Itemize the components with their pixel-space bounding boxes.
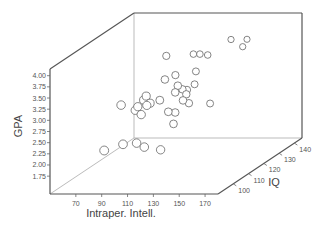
- data-point: [132, 139, 141, 148]
- z-tick-label: 1.75: [32, 173, 46, 180]
- data-point: [192, 68, 199, 75]
- data-point: [228, 36, 234, 42]
- x-tick-label: 110: [122, 200, 133, 207]
- iq-tick-label: 100: [238, 187, 250, 194]
- z-tick-label: 3.75: [32, 83, 46, 90]
- data-point: [100, 146, 109, 155]
- data-point: [156, 146, 164, 154]
- data-point: [190, 51, 197, 58]
- z-tick-label: 3.50: [32, 95, 46, 102]
- data-point: [161, 76, 169, 84]
- iq-axis-title: IQ: [268, 176, 280, 188]
- iq-tick-label: 130: [284, 156, 296, 163]
- data-point: [171, 89, 179, 97]
- data-point: [163, 52, 170, 59]
- data-point: [170, 120, 178, 128]
- z-tick-label: 3.00: [32, 117, 46, 124]
- x-tick-label: 170: [199, 200, 211, 207]
- iq-axis-line: [218, 138, 302, 194]
- iq-tick: [264, 163, 267, 165]
- plot-box: [50, 13, 302, 194]
- data-point: [140, 143, 149, 152]
- data-point: [179, 97, 187, 105]
- x-tick-label: 90: [98, 200, 106, 207]
- top-left-edge: [50, 13, 134, 69]
- iq-tick-label: 110: [254, 177, 265, 184]
- z-tick-label: 2.25: [32, 150, 46, 157]
- data-point: [207, 100, 214, 107]
- iq-tick: [249, 174, 252, 176]
- z-axis-title: GPA: [12, 114, 24, 137]
- iq-tick-label: 120: [269, 166, 281, 173]
- x-axis-title: Intraper. Intell.: [86, 207, 156, 219]
- z-tick-label: 3.25: [32, 106, 46, 113]
- data-point: [191, 81, 198, 88]
- data-point: [119, 140, 128, 149]
- iq-tick-label: 140: [299, 146, 311, 153]
- data-point: [117, 101, 126, 110]
- data-point: [164, 108, 172, 116]
- data-points: [100, 36, 250, 155]
- data-point: [244, 36, 250, 42]
- iq-tick: [233, 184, 236, 186]
- z-tick-label: 2.00: [32, 161, 46, 168]
- data-point: [204, 52, 211, 59]
- data-point: [197, 51, 204, 58]
- x-tick-label: 70: [72, 200, 80, 207]
- iq-tick: [279, 153, 282, 155]
- x-tick-label: 150: [173, 200, 185, 207]
- iq-tick: [294, 143, 297, 145]
- data-point: [134, 103, 142, 111]
- data-point: [156, 96, 164, 104]
- data-point: [171, 109, 179, 117]
- data-point: [143, 101, 151, 109]
- z-tick-label: 2.50: [32, 139, 46, 146]
- data-point: [137, 110, 145, 118]
- z-tick-label: 4.00: [32, 72, 46, 79]
- scatter-3d-chart: 70901101301501701001101201301401.752.002…: [0, 0, 321, 231]
- x-tick-label: 130: [148, 200, 160, 207]
- data-point: [172, 71, 179, 78]
- data-point: [240, 44, 246, 50]
- z-tick-label: 2.75: [32, 128, 46, 135]
